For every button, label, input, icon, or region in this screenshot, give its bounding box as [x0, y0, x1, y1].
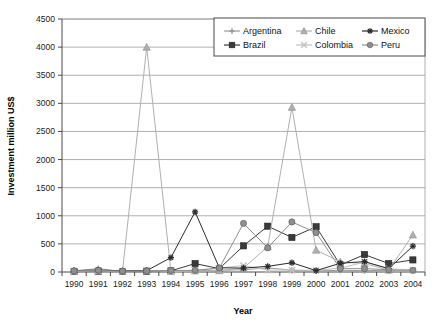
data-point-square-marker [229, 42, 235, 48]
investment-line-chart: 050010001500200025003000350040004500 199… [0, 0, 441, 328]
x-tick-label: 1990 [65, 279, 84, 289]
data-point-square-marker [313, 224, 319, 230]
data-point-circle-marker [410, 267, 416, 273]
y-tick-label: 1500 [36, 183, 55, 193]
y-axis-title: Investment million US$ [6, 96, 16, 195]
data-point-star-marker [240, 265, 246, 271]
y-tick-label: 4000 [36, 42, 55, 52]
data-series [71, 43, 417, 274]
x-tick-label: 2001 [331, 279, 350, 289]
y-tick-label: 4500 [36, 14, 55, 24]
x-axis-ticks: 1990199119921993199419951996199719981999… [62, 272, 425, 289]
y-tick-label: 500 [41, 239, 55, 249]
x-tick-label: 2003 [379, 279, 398, 289]
y-axis-ticks: 050010001500200025003000350040004500 [36, 14, 62, 277]
data-point-circle-marker [95, 267, 101, 273]
data-point-triangle-marker [288, 104, 295, 111]
data-point-star-marker [367, 28, 373, 34]
x-tick-label: 1993 [137, 279, 156, 289]
data-point-star-marker [192, 209, 198, 215]
axes [62, 19, 425, 272]
data-point-circle-marker [216, 265, 222, 271]
legend-label: Brazil [243, 40, 266, 50]
data-point-circle-marker [289, 219, 295, 225]
y-tick-label: 1000 [36, 211, 55, 221]
x-tick-label: 1991 [89, 279, 108, 289]
data-point-square-marker [361, 251, 367, 257]
data-point-circle-marker [265, 245, 271, 251]
data-point-circle-marker [119, 268, 125, 274]
legend-label: Peru [381, 40, 400, 50]
legend-label: Mexico [381, 26, 410, 36]
data-point-circle-marker [386, 267, 392, 273]
y-tick-label: 2500 [36, 126, 55, 136]
y-tick-label: 2000 [36, 155, 55, 165]
data-point-star-marker [410, 243, 416, 249]
legend-label: Argentina [243, 26, 282, 36]
data-point-circle-marker [144, 268, 150, 274]
data-point-circle-marker [367, 42, 373, 48]
data-point-square-marker [265, 223, 271, 229]
data-point-star-marker [313, 267, 319, 273]
series-chile [71, 43, 417, 274]
x-tick-label: 1995 [186, 279, 205, 289]
x-tick-label: 2000 [307, 279, 326, 289]
x-tick-label: 1992 [113, 279, 132, 289]
series-line [74, 47, 413, 271]
data-point-circle-marker [71, 268, 77, 274]
data-point-square-marker [240, 243, 246, 249]
x-axis-title: Year [233, 306, 253, 316]
data-point-star-marker [361, 258, 367, 264]
data-point-circle-marker [337, 266, 343, 272]
data-point-circle-marker [361, 266, 367, 272]
data-point-square-marker [410, 257, 416, 263]
data-point-circle-marker [192, 267, 198, 273]
y-tick-label: 3000 [36, 98, 55, 108]
x-tick-label: 1998 [258, 279, 277, 289]
x-tick-label: 1999 [282, 279, 301, 289]
x-tick-label: 2002 [355, 279, 374, 289]
x-tick-label: 1996 [210, 279, 229, 289]
y-tick-label: 3500 [36, 70, 55, 80]
legend-label: Chile [315, 26, 336, 36]
chart-canvas: 050010001500200025003000350040004500 199… [0, 0, 441, 328]
chart-legend: ArgentinaBrazilChileColombiaMexicoPeru [214, 18, 425, 56]
x-tick-label: 2004 [403, 279, 422, 289]
data-point-star-marker [168, 255, 174, 261]
data-point-square-marker [192, 260, 198, 266]
data-point-circle-marker [168, 267, 174, 273]
y-tick-label: 0 [50, 267, 55, 277]
data-point-star-marker [289, 260, 295, 266]
legend-label: Colombia [315, 40, 353, 50]
data-point-triangle-marker [313, 246, 320, 253]
data-point-square-marker [289, 234, 295, 240]
data-point-circle-marker [313, 230, 319, 236]
x-tick-label: 1997 [234, 279, 253, 289]
data-point-circle-marker [240, 220, 246, 226]
x-tick-label: 1994 [161, 279, 180, 289]
data-point-star-marker [265, 263, 271, 269]
data-point-triangle-marker [409, 231, 416, 238]
